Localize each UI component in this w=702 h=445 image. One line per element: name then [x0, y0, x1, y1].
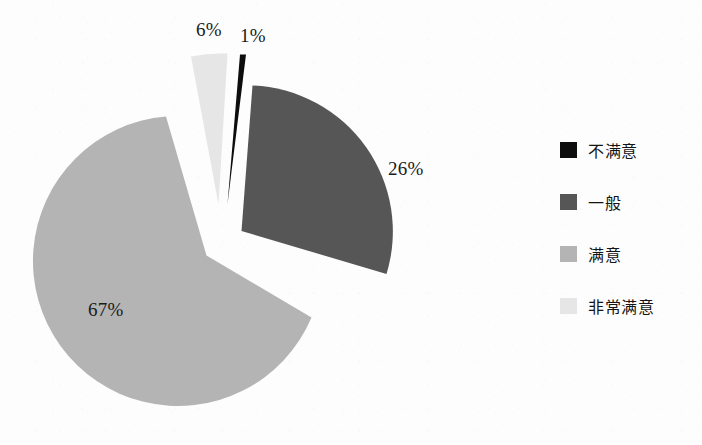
- pie-slice-average[interactable]: [242, 86, 393, 275]
- pie-slice-dissatisfied[interactable]: [228, 55, 247, 205]
- pie-slice-very-satisfied[interactable]: [191, 53, 228, 204]
- legend-item-satisfied[interactable]: 满意: [560, 228, 694, 280]
- legend-label-average: 一般: [588, 190, 621, 214]
- legend-label-dissatisfied: 不满意: [588, 138, 638, 162]
- legend-swatch-icon-very-satisfied: [560, 298, 577, 314]
- legend-swatch-icon-dissatisfied: [560, 142, 577, 158]
- chart-legend: 不满意 一般 满意 非常满意: [560, 124, 694, 332]
- pie-label-satisfied: 67%: [88, 300, 124, 319]
- pie-label-very-satisfied: 6%: [196, 20, 222, 39]
- legend-item-very-satisfied[interactable]: 非常满意: [560, 280, 694, 332]
- legend-swatch-icon-average: [560, 194, 577, 210]
- legend-label-very-satisfied: 非常满意: [588, 294, 654, 318]
- legend-label-satisfied: 满意: [588, 242, 621, 266]
- legend-item-dissatisfied[interactable]: 不满意: [560, 124, 694, 176]
- pie-label-dissatisfied: 1%: [240, 26, 266, 45]
- legend-swatch-icon-satisfied: [560, 246, 577, 262]
- chart-canvas: 6% 1% 26% 67% 不满意 一般 满意 非常满意: [0, 0, 702, 445]
- legend-item-average[interactable]: 一般: [560, 176, 694, 228]
- pie-label-average: 26%: [388, 159, 424, 178]
